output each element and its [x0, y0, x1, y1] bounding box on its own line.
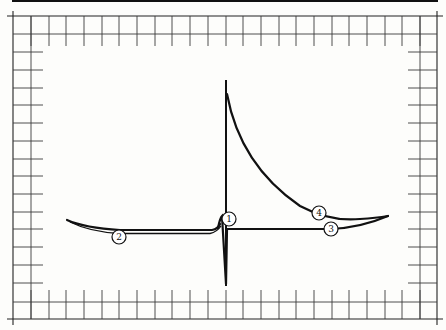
curve-segment-4	[227, 94, 388, 219]
svg-text:3: 3	[328, 224, 334, 234]
waveform	[67, 80, 388, 286]
waveform-diagram: 1 2 3 4	[0, 0, 446, 330]
label-3: 3	[324, 222, 338, 236]
label-4: 4	[312, 206, 326, 220]
svg-text:1: 1	[226, 214, 232, 224]
curve-segment-2	[67, 220, 220, 230]
svg-text:2: 2	[116, 232, 122, 242]
svg-text:4: 4	[316, 208, 322, 218]
label-1: 1	[222, 212, 236, 226]
label-2: 2	[112, 230, 126, 244]
diagram-stage: 1 2 3 4	[0, 0, 446, 330]
